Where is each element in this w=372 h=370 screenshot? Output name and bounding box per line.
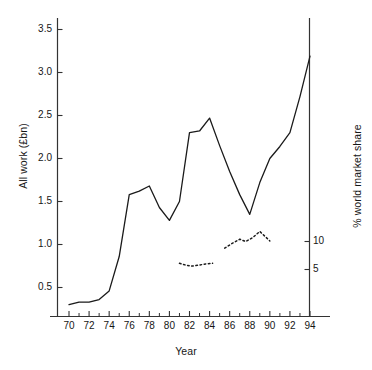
axis-lines bbox=[50, 18, 330, 317]
x-axis-title: Year bbox=[0, 345, 372, 357]
chart-figure: All work (£bn) % world market share Year… bbox=[0, 0, 372, 370]
right-axis-ticks bbox=[305, 242, 310, 270]
left-axis-ticks bbox=[58, 30, 63, 288]
right-tick-label-10: 10 bbox=[313, 235, 339, 246]
left-tick-label-2.0: 2.0 bbox=[20, 152, 52, 163]
left-tick-label-2.5: 2.5 bbox=[20, 109, 52, 120]
right-tick-label-5: 5 bbox=[313, 263, 339, 274]
left-tick-label-3.0: 3.0 bbox=[20, 66, 52, 77]
series-line-1 bbox=[179, 263, 212, 266]
series-line-2 bbox=[225, 231, 270, 248]
left-tick-label-0.5: 0.5 bbox=[20, 281, 52, 292]
left-tick-label-1.5: 1.5 bbox=[20, 195, 52, 206]
data-series-layer bbox=[69, 56, 310, 305]
x-axis-ticks bbox=[69, 311, 310, 317]
x-tick-label-94: 94 bbox=[298, 320, 322, 331]
left-tick-label-3.5: 3.5 bbox=[20, 23, 52, 34]
series-line-0 bbox=[69, 56, 310, 305]
left-tick-label-1.0: 1.0 bbox=[20, 238, 52, 249]
y-axis-right-title: % world market share bbox=[351, 111, 363, 241]
line-chart-plot bbox=[0, 0, 372, 370]
